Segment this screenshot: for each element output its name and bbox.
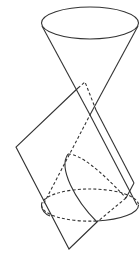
lower-cone-rim-front-right — [97, 205, 139, 221]
cutting-plane-edge-hidden — [78, 82, 96, 110]
cone-generator-left-lower-hidden — [97, 198, 126, 222]
upper-cone-rim — [42, 7, 139, 39]
parabola-front — [65, 154, 97, 222]
cutting-plane-edge-right — [96, 110, 134, 183]
cone-generator-left-lower — [89, 113, 137, 205]
conic-section-diagram — [0, 0, 140, 253]
lower-cone-rim-back — [42, 189, 139, 205]
cone-generator-right-lower-hidden — [43, 113, 91, 205]
cutting-plane-edge-left — [16, 88, 97, 249]
